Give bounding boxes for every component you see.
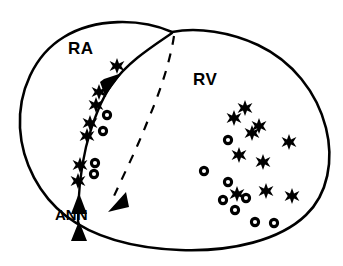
circle-marker xyxy=(219,196,226,203)
circle-marker xyxy=(91,159,98,166)
circle-marker xyxy=(231,206,238,213)
circle-marker xyxy=(103,111,110,118)
circle-marker xyxy=(224,178,231,185)
circle-marker xyxy=(200,167,207,174)
circle-marker xyxy=(90,170,97,177)
circle-marker xyxy=(270,219,277,226)
label-annulus: ANN xyxy=(55,206,88,223)
circle-marker xyxy=(242,194,249,201)
diagram-canvas: RA RV ANN xyxy=(0,0,343,266)
circle-marker xyxy=(99,127,106,134)
circle-marker xyxy=(224,136,231,143)
circle-marker xyxy=(251,218,258,225)
label-right-atrium: RA xyxy=(68,39,94,58)
label-right-ventricle: RV xyxy=(193,70,217,89)
heart-chamber-diagram: RA RV ANN xyxy=(0,0,343,266)
